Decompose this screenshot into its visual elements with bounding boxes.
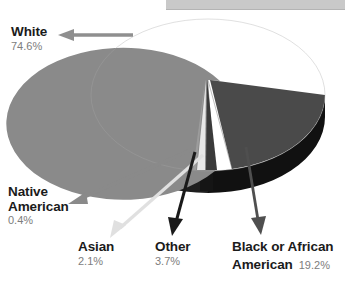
arrow-black-african-american — [246, 147, 266, 235]
label-white-percent: 74.6% — [11, 40, 47, 53]
label-white: White 74.6% — [11, 25, 47, 53]
label-black-african-american: Black or African American19.2% — [232, 240, 333, 273]
label-native-american-percent: 0.4% — [8, 214, 69, 227]
label-native-american: Native American 0.4% — [8, 185, 69, 227]
label-other-percent: 3.7% — [155, 255, 191, 268]
label-asian-name: Asian — [78, 240, 114, 255]
arrow-native-american — [68, 148, 195, 204]
label-black-african-american-name-line2: American — [232, 257, 293, 272]
arrow-asian — [110, 155, 203, 238]
label-native-american-name-line2: American — [8, 200, 69, 215]
label-black-african-american-percent: 19.2% — [299, 259, 330, 271]
label-asian: Asian 2.1% — [78, 240, 114, 268]
pie-chart-figure: White 74.6% Native American 0.4% Asian 2… — [0, 0, 351, 289]
arrow-white — [58, 29, 133, 41]
label-black-african-american-name-line1: Black or African — [232, 240, 333, 255]
label-native-american-name-line1: Native — [8, 185, 69, 200]
label-white-name: White — [11, 25, 47, 40]
label-other: Other 3.7% — [155, 240, 191, 268]
arrow-other — [168, 152, 195, 236]
label-other-name: Other — [155, 240, 191, 255]
label-asian-percent: 2.1% — [78, 255, 114, 268]
